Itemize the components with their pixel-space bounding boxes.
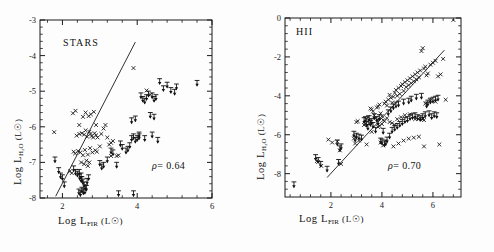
correlation-annotation-stars: ρ= 0.64 (152, 160, 185, 171)
data-point-detection (377, 103, 381, 107)
data-point-detection (408, 76, 412, 80)
data-point-upper-limit (414, 94, 419, 100)
data-points (292, 0, 456, 188)
data-point-upper-limit (53, 157, 58, 163)
x-axis-label-text: Log L (299, 213, 328, 224)
x-axis-label-text: Log L (58, 215, 87, 226)
data-point-upper-limit (381, 128, 386, 134)
data-point-detection (94, 123, 98, 127)
data-point-upper-limit (114, 162, 119, 168)
data-point-upper-limit (133, 116, 138, 122)
data-point-detection (365, 143, 369, 147)
y-axis-label-text: Log L (255, 151, 266, 180)
data-point-upper-limit (129, 118, 134, 124)
data-point-detection (439, 73, 443, 77)
data-point-detection (395, 117, 399, 121)
data-point-upper-limit (325, 166, 330, 172)
data-point-detection (417, 75, 421, 79)
y-axis-label-subscript: H₂O (260, 138, 268, 151)
data-point-detection (96, 136, 100, 140)
y-tick-label: -3 (29, 15, 36, 25)
data-point-detection (412, 79, 416, 83)
data-point-detection (409, 81, 413, 85)
data-point-upper-limit (292, 182, 297, 188)
data-point-detection (423, 65, 427, 69)
data-point-upper-limit (419, 93, 424, 99)
data-point-upper-limit (161, 86, 166, 92)
data-point-detection (392, 145, 396, 149)
y-tick-label: -8 (29, 193, 36, 203)
y-tick-label: -6 (29, 122, 36, 132)
data-point-detection (70, 171, 74, 175)
data-point-detection (111, 139, 115, 143)
data-point-detection (370, 130, 374, 134)
data-point-detection (52, 130, 56, 134)
plot-area-stars: 246-3-4-5-6-7-8 (0, 0, 247, 252)
data-point-upper-limit (152, 114, 157, 120)
y-tick-label: -4 (274, 91, 282, 101)
plot-area-hii: 2460-2-4-6-8 (247, 0, 494, 252)
data-point-detection (397, 142, 401, 146)
data-point-detection (418, 69, 422, 73)
x-tick-label: 4 (135, 201, 140, 211)
data-point-detection (81, 115, 85, 119)
x-tick-label: 2 (60, 201, 64, 211)
data-point-detection (84, 128, 88, 132)
data-point-detection (402, 139, 406, 143)
y-tick-label: 0 (277, 13, 281, 23)
data-points (52, 66, 199, 197)
data-point-upper-limit (168, 88, 173, 94)
x-tick-label: 4 (380, 200, 385, 210)
x-axis-label-unit: (L☉) (342, 214, 364, 224)
data-point-detection (86, 153, 90, 157)
data-point-detection (385, 104, 389, 108)
data-point-detection (444, 98, 448, 102)
data-point-detection (397, 86, 401, 90)
y-axis-label-hii: Log LH₂O (L☉) (255, 113, 268, 180)
data-point-upper-limit (172, 89, 177, 95)
panel-hii: 2460-2-4-6-8 HII ρ= 0.70 Log LH₂O (L☉) L… (247, 0, 494, 252)
data-point-detection (436, 74, 440, 78)
regression-line (56, 42, 136, 196)
data-point-upper-limit (387, 133, 392, 139)
data-point-upper-limit (148, 113, 153, 119)
correlation-annotation-hii: ρ= 0.70 (388, 160, 421, 171)
data-point-detection (407, 83, 411, 87)
data-point-detection (428, 63, 432, 67)
y-axis-label-subscript: H₂O (17, 143, 25, 156)
x-tick-label: 6 (431, 200, 435, 210)
data-point-detection (404, 85, 408, 89)
data-point-upper-limit (157, 79, 162, 85)
data-point-detection (398, 92, 402, 96)
data-point-detection (132, 66, 136, 70)
data-point-upper-limit (150, 132, 155, 138)
data-point-detection (406, 78, 410, 82)
x-tick-label: 6 (210, 201, 214, 211)
axis-tick-labels: 246-3-4-5-6-7-8 (29, 15, 214, 211)
data-point-detection (399, 115, 403, 119)
data-point-upper-limit (401, 99, 406, 105)
y-tick-label: -2 (274, 52, 281, 62)
axis-tick-labels: 2460-2-4-6-8 (274, 13, 435, 210)
data-point-detection (98, 144, 102, 148)
data-point-detection (330, 141, 334, 145)
data-point-detection (431, 61, 435, 65)
data-point-upper-limit (390, 127, 395, 133)
data-point-detection (71, 111, 75, 115)
y-tick-label: -5 (29, 86, 36, 96)
data-point-upper-limit (155, 137, 160, 143)
x-axis-label-stars: Log LFIR (L☉) (58, 215, 123, 228)
y-axis-label-unit: (L☉) (13, 118, 23, 140)
data-point-detection (356, 119, 360, 123)
data-point-detection (92, 110, 96, 114)
x-tick-label: 2 (329, 200, 333, 210)
x-axis-label-hii: Log LFIR (L☉) (299, 213, 364, 226)
data-point-detection (403, 80, 407, 84)
rho-value-stars: = 0.64 (157, 160, 185, 171)
axis-ticks (285, 18, 461, 197)
axes-frame (285, 18, 461, 197)
data-point-detection (400, 82, 404, 86)
panel-title-hii: HII (296, 26, 313, 37)
data-point-detection (99, 132, 103, 136)
data-point-upper-limit (116, 191, 121, 197)
